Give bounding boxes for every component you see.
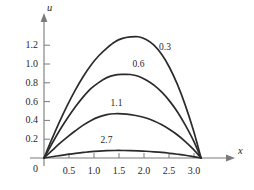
x-tick-label: 1.0 — [81, 166, 107, 176]
y-tick-label: 0.8 — [14, 78, 38, 88]
x-tick-label: 2.0 — [131, 166, 157, 176]
y-axis-label: u — [47, 3, 52, 14]
curve-0.3 — [44, 37, 201, 158]
x-tick-label: 2.5 — [156, 166, 182, 176]
x-tick-label: 0.5 — [56, 166, 82, 176]
curve-label-0.6: 0.6 — [133, 60, 145, 70]
curve-2.7 — [44, 150, 201, 158]
data-curves — [44, 37, 201, 158]
curve-label-0.3: 0.3 — [159, 43, 171, 53]
curve-label-2.7: 2.7 — [101, 136, 113, 146]
plot-area — [0, 0, 254, 190]
y-tick-label: 0.4 — [14, 115, 38, 125]
y-axis-ticks — [44, 45, 50, 139]
y-tick-label: 1.2 — [14, 40, 38, 50]
x-tick-label: 1.5 — [106, 166, 132, 176]
x-tick-label: 3.0 — [181, 166, 207, 176]
y-tick-label: 0.2 — [14, 134, 38, 144]
y-tick-label: 0.6 — [14, 97, 38, 107]
y-tick-label: 1.0 — [14, 59, 38, 69]
curve-1.1 — [44, 114, 201, 158]
y-axis-arrowhead — [41, 13, 48, 22]
y-tick-label: 0 — [26, 164, 38, 174]
curve-label-1.1: 1.1 — [111, 99, 123, 109]
x-axis-arrowhead — [226, 155, 235, 162]
x-axis-label: x — [238, 146, 243, 157]
chart-container: u x 00.20.40.60.81.01.2 0.51.01.52.02.53… — [0, 0, 254, 190]
